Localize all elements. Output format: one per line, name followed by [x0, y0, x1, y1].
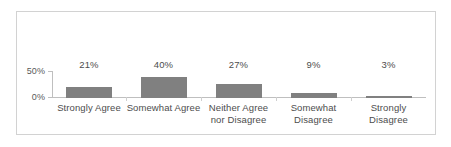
category-label-line: Somewhat Agree — [126, 102, 201, 114]
bar-value-label: 27% — [201, 59, 276, 70]
bar-slot: 27% — [201, 71, 276, 98]
bar-slot: 9% — [276, 71, 351, 98]
category-label-line: Strongly Disagree — [351, 102, 426, 125]
y-axis-tick-label-0: 0% — [15, 92, 45, 102]
y-axis-tick-label-50: 50% — [15, 66, 45, 76]
category-label-strongly-disagree: Strongly Disagree — [351, 102, 426, 125]
category-label-somewhat-disagree: Somewhat Disagree — [276, 102, 351, 125]
bar-strongly-agree[interactable] — [66, 87, 112, 98]
category-label-somewhat-agree: Somewhat Agree — [126, 102, 201, 114]
category-label-strongly-agree: Strongly Agree — [52, 102, 126, 114]
bar-slot: 21% — [52, 71, 126, 98]
bar-value-label: 21% — [52, 59, 126, 70]
bar-value-label: 9% — [276, 59, 351, 70]
bar-slot: 3% — [351, 71, 426, 98]
chart-category-somewhat-disagree: 9% Somewhat Disagree — [276, 71, 351, 135]
bar-slot: 40% — [126, 71, 201, 98]
category-label-neither-agree-nor-disagree: Neither Agree nor Disagree — [201, 102, 276, 125]
chart-category-strongly-disagree: 3% Strongly Disagree — [351, 71, 426, 135]
category-label-line: Strongly Agree — [52, 102, 126, 114]
bar-value-label: 40% — [126, 59, 201, 70]
chart-category-neither-agree-nor-disagree: 27% Neither Agree nor Disagree — [201, 71, 276, 135]
bar-chart-figure: 50% 0% 21% Strongly Agree 40% Somewhat A… — [0, 0, 451, 147]
bar-neither-agree-nor-disagree[interactable] — [216, 84, 262, 98]
category-label-line: Somewhat — [276, 102, 351, 114]
chart-category-somewhat-agree: 40% Somewhat Agree — [126, 71, 201, 135]
bar-somewhat-disagree[interactable] — [291, 93, 337, 98]
category-label-line: Disagree — [276, 114, 351, 126]
category-label-line: nor Disagree — [201, 114, 276, 126]
bar-somewhat-agree[interactable] — [141, 77, 187, 98]
category-label-line: Neither Agree — [201, 102, 276, 114]
bar-strongly-disagree[interactable] — [366, 96, 412, 98]
bar-value-label: 3% — [351, 59, 426, 70]
chart-category-strongly-agree: 21% Strongly Agree — [52, 71, 126, 135]
